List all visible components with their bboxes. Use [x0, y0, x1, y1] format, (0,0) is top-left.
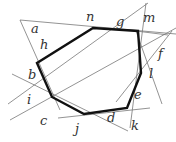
angle-label-h: h: [40, 37, 48, 52]
angle-label-i: i: [27, 92, 31, 107]
angle-label-j: j: [72, 121, 79, 136]
angle-label-e: e: [134, 87, 142, 102]
outer-line: [58, 108, 150, 118]
angle-label-k: k: [131, 118, 139, 133]
heptagon: [37, 28, 141, 114]
polygon-angle-diagram: ahbicjdkelfmgn: [0, 0, 176, 142]
outer-line: [116, 31, 172, 102]
angle-label-g: g: [116, 14, 124, 29]
angle-label-a: a: [31, 21, 39, 36]
angle-label-f: f: [157, 46, 165, 61]
outer-line: [8, 3, 148, 104]
angle-label-b: b: [28, 67, 36, 82]
angle-label-n: n: [86, 9, 94, 24]
angle-label-l: l: [149, 66, 153, 81]
angle-label-d: d: [107, 110, 115, 125]
angle-label-c: c: [40, 113, 48, 128]
angle-label-m: m: [143, 10, 155, 25]
outer-line: [20, 20, 60, 110]
